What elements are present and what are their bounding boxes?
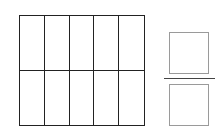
grid-cell-r2c1[interactable] bbox=[20, 71, 45, 126]
grid-cell-r1c4[interactable] bbox=[94, 16, 119, 71]
grid-cell-r2c5[interactable] bbox=[119, 71, 144, 126]
fraction-grid bbox=[19, 15, 145, 126]
numerator-box[interactable] bbox=[169, 32, 209, 74]
fraction-bar bbox=[164, 78, 215, 79]
grid-cell-r1c3[interactable] bbox=[70, 16, 95, 71]
grid-cell-r1c2[interactable] bbox=[45, 16, 70, 71]
grid-cell-r1c5[interactable] bbox=[119, 16, 144, 71]
grid-cell-r2c2[interactable] bbox=[45, 71, 70, 126]
grid-cell-r2c3[interactable] bbox=[70, 71, 95, 126]
denominator-box[interactable] bbox=[169, 84, 209, 126]
grid-cell-r2c4[interactable] bbox=[94, 71, 119, 126]
grid-cell-r1c1[interactable] bbox=[20, 16, 45, 71]
